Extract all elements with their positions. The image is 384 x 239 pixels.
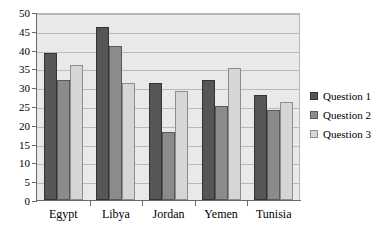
bar-chart: 05101520253035404550 EgyptLibyaJordanYem… — [0, 0, 384, 239]
x-tick-label-tunisia: Tunisia — [256, 207, 292, 221]
plot-area — [37, 13, 300, 201]
chart-legend: Question 1Question 2Question 3 — [310, 86, 384, 143]
bar-libya-series-2 — [109, 46, 122, 200]
y-tick-mark — [32, 32, 37, 33]
y-tick-label-10: 10 — [19, 158, 30, 169]
bar-jordan-series-2 — [162, 132, 175, 200]
y-tick-mark — [32, 13, 37, 14]
y-tick-label-20: 20 — [19, 120, 30, 131]
y-tick-mark — [32, 107, 37, 108]
y-tick-label-40: 40 — [19, 45, 30, 56]
bar-group-tunisia — [247, 14, 300, 200]
bar-yemen-series-2 — [215, 106, 228, 200]
x-tick-mark — [247, 201, 248, 206]
legend-entry-2: Question 2 — [310, 105, 384, 124]
y-tick-mark — [32, 201, 37, 202]
legend-label-series-1: Question 1 — [323, 90, 371, 102]
legend-swatch-icon-series-2 — [310, 111, 318, 119]
x-tick-mark — [195, 201, 196, 206]
y-tick-label-30: 30 — [19, 83, 30, 94]
bar-jordan-series-3 — [175, 91, 188, 200]
legend-entry-1: Question 1 — [310, 86, 384, 105]
y-tick-label-0: 0 — [25, 196, 31, 207]
legend-label-series-2: Question 2 — [323, 109, 371, 121]
y-tick-label-15: 15 — [19, 139, 30, 150]
y-tick-mark — [32, 163, 37, 164]
bar-egypt-series-2 — [57, 80, 70, 200]
y-tick-label-5: 5 — [25, 177, 31, 188]
x-tick-mark — [142, 201, 143, 206]
bar-group-yemen — [195, 14, 248, 200]
y-tick-mark — [32, 145, 37, 146]
bar-tunisia-series-3 — [280, 102, 293, 200]
bars-layer — [37, 14, 299, 200]
y-tick-mark — [32, 51, 37, 52]
bar-egypt-series-1 — [44, 53, 57, 200]
x-tick-label-egypt: Egypt — [49, 207, 78, 221]
y-tick-label-35: 35 — [19, 64, 30, 75]
bar-jordan-series-1 — [149, 83, 162, 200]
x-tick-label-libya: Libya — [102, 207, 130, 221]
legend-label-series-3: Question 3 — [323, 128, 371, 140]
y-axis: 05101520253035404550 — [0, 0, 34, 239]
y-tick-label-50: 50 — [19, 8, 30, 19]
bar-group-jordan — [142, 14, 195, 200]
x-axis: EgyptLibyaJordanYemenTunisia — [37, 207, 300, 227]
bar-yemen-series-1 — [202, 80, 215, 200]
legend-entry-3: Question 3 — [310, 124, 384, 143]
y-tick-label-45: 45 — [19, 26, 30, 37]
y-tick-mark — [32, 126, 37, 127]
x-tick-label-yemen: Yemen — [204, 207, 237, 221]
bar-tunisia-series-1 — [254, 95, 267, 200]
bar-yemen-series-3 — [228, 68, 241, 200]
y-tick-mark — [32, 69, 37, 70]
bar-libya-series-3 — [122, 83, 135, 200]
y-tick-label-25: 25 — [19, 102, 30, 113]
bar-group-egypt — [37, 14, 90, 200]
legend-swatch-icon-series-1 — [310, 92, 318, 100]
bar-group-libya — [90, 14, 143, 200]
y-tick-mark — [32, 182, 37, 183]
x-axis-line — [36, 200, 301, 201]
legend-swatch-icon-series-3 — [310, 130, 318, 138]
x-tick-label-jordan: Jordan — [153, 207, 185, 221]
x-tick-mark — [90, 201, 91, 206]
bar-egypt-series-3 — [70, 65, 83, 200]
y-tick-mark — [32, 88, 37, 89]
bar-libya-series-1 — [96, 27, 109, 200]
bar-tunisia-series-2 — [267, 110, 280, 200]
